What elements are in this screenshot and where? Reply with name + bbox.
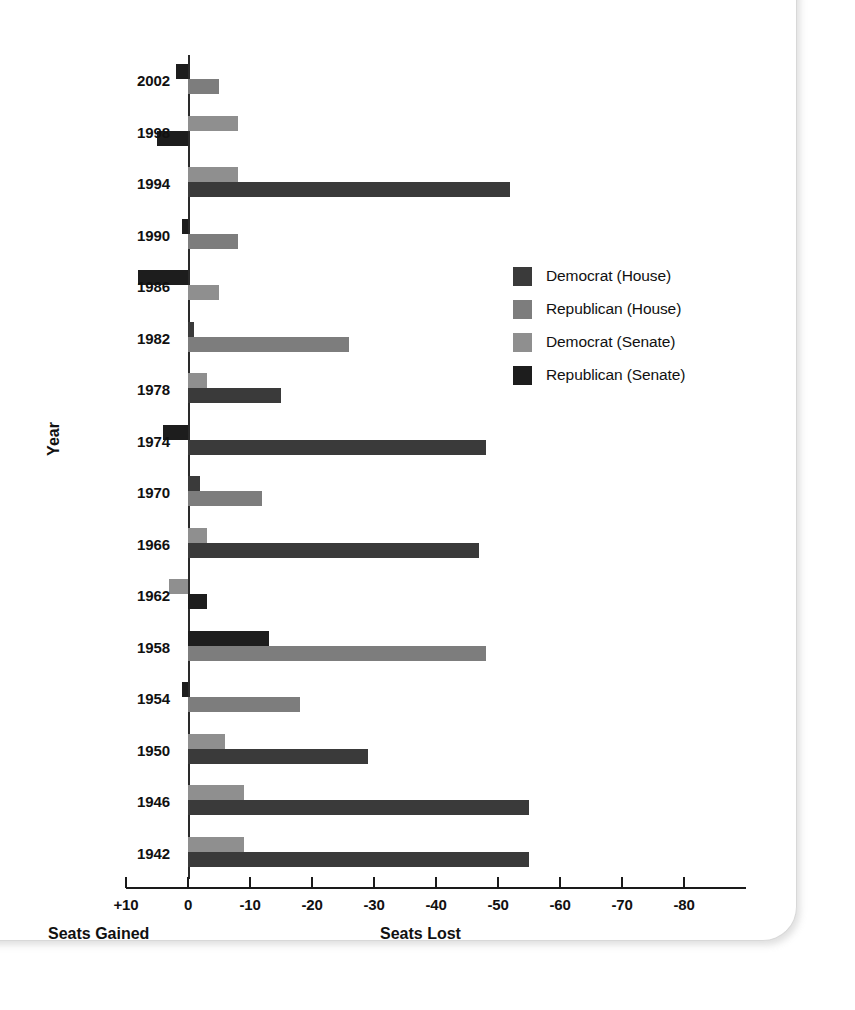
bar xyxy=(182,682,188,697)
x-axis-tick xyxy=(497,877,499,888)
x-axis-tick xyxy=(683,877,685,888)
x-axis-tick xyxy=(249,877,251,888)
bar xyxy=(188,749,368,764)
x-axis-tick-label: -40 xyxy=(413,896,459,913)
x-axis-tick-label: -60 xyxy=(537,896,583,913)
bar xyxy=(188,116,238,131)
x-axis-tick xyxy=(125,877,127,888)
x-axis-tick xyxy=(621,877,623,888)
year-axis-label: 1998 xyxy=(60,124,170,141)
seats-gained-caption: Seats Gained xyxy=(48,925,149,943)
legend-item-label: Republican (Senate) xyxy=(546,366,685,384)
year-axis-label: 1942 xyxy=(60,845,170,862)
bar xyxy=(188,337,349,352)
bar xyxy=(188,646,486,661)
bar xyxy=(188,631,269,646)
plot-area: 2002199819941990198619821978197419701966… xyxy=(0,0,855,1010)
year-axis-label: 1974 xyxy=(60,433,170,450)
x-axis-tick xyxy=(311,877,313,888)
year-axis-label: 1966 xyxy=(60,536,170,553)
seats-lost-caption: Seats Lost xyxy=(380,925,461,943)
bar xyxy=(188,79,219,94)
legend-swatch-icon xyxy=(513,300,532,319)
x-axis-tick-label: -50 xyxy=(475,896,521,913)
bar xyxy=(188,182,510,197)
year-axis-label: 1994 xyxy=(60,175,170,192)
x-axis-tick-label: -70 xyxy=(599,896,645,913)
bar xyxy=(169,579,188,594)
legend-item: Democrat (House) xyxy=(513,262,685,290)
legend-item-label: Democrat (House) xyxy=(546,267,671,285)
x-axis-tick xyxy=(187,877,189,888)
bar xyxy=(188,734,225,749)
bar xyxy=(188,594,207,609)
x-axis-tick xyxy=(559,877,561,888)
x-axis-tick-label: -20 xyxy=(289,896,335,913)
legend-swatch-icon xyxy=(513,333,532,352)
bar xyxy=(182,219,188,234)
year-axis-label: 1970 xyxy=(60,484,170,501)
x-axis-tick-label: 0 xyxy=(165,896,211,913)
bar xyxy=(188,528,207,543)
bar xyxy=(188,167,238,182)
bar xyxy=(188,322,194,337)
legend-item-label: Republican (House) xyxy=(546,300,681,318)
bar xyxy=(188,543,479,558)
legend-item: Republican (House) xyxy=(513,295,685,323)
x-axis-tick-label: -30 xyxy=(351,896,397,913)
bar xyxy=(188,491,262,506)
year-axis-label: 1950 xyxy=(60,742,170,759)
legend-item: Republican (Senate) xyxy=(513,361,685,389)
bar xyxy=(188,800,529,815)
chart-page: 2002199819941990198619821978197419701966… xyxy=(0,0,855,1010)
year-axis-label: 1946 xyxy=(60,793,170,810)
year-axis-label: 1962 xyxy=(60,587,170,604)
legend-swatch-icon xyxy=(513,267,532,286)
year-axis-label: 1990 xyxy=(60,227,170,244)
x-axis-tick xyxy=(435,877,437,888)
year-axis-label: 2002 xyxy=(60,72,170,89)
legend-item-label: Democrat (Senate) xyxy=(546,333,675,351)
bar xyxy=(188,476,200,491)
chart-legend: Democrat (House)Republican (House)Democr… xyxy=(513,262,685,394)
bar xyxy=(188,697,300,712)
bar xyxy=(188,373,207,388)
x-axis-tick-label: -10 xyxy=(227,896,273,913)
bar xyxy=(188,234,238,249)
bar xyxy=(188,285,219,300)
bar xyxy=(188,852,529,867)
x-axis-tick xyxy=(373,877,375,888)
legend-item: Democrat (Senate) xyxy=(513,328,685,356)
bar xyxy=(188,837,244,852)
bar xyxy=(176,64,188,79)
year-axis-label: 1978 xyxy=(60,381,170,398)
year-axis-label: 1986 xyxy=(60,278,170,295)
y-axis-title: Year xyxy=(45,379,63,499)
year-axis-label: 1982 xyxy=(60,330,170,347)
year-axis-label: 1954 xyxy=(60,690,170,707)
x-axis-tick-label: +10 xyxy=(103,896,149,913)
bar xyxy=(188,440,486,455)
bar xyxy=(188,388,281,403)
year-axis-label: 1958 xyxy=(60,639,170,656)
legend-swatch-icon xyxy=(513,366,532,385)
bar xyxy=(188,785,244,800)
x-axis-tick-label: -80 xyxy=(661,896,707,913)
